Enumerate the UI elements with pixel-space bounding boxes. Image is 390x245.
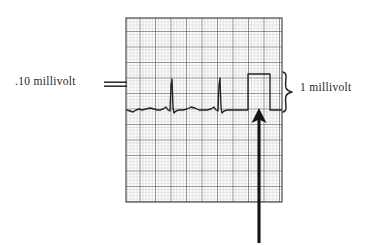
left-pointer-icon bbox=[104, 82, 127, 86]
label-point-one-millivolt: .10 millivolt bbox=[15, 76, 76, 88]
label-one-millivolt: 1 millivolt bbox=[300, 82, 352, 94]
curly-brace-icon bbox=[283, 72, 292, 112]
figure-root: .10 millivolt 1 millivolt bbox=[0, 0, 390, 245]
ecg-diagram-svg bbox=[0, 0, 390, 245]
